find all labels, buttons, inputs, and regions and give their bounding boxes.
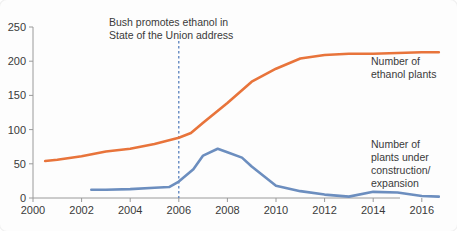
y-tick-label-50: 50	[14, 158, 26, 170]
x-tick-label-2004: 2004	[118, 204, 142, 216]
construction-legend-line-4: expansion	[371, 177, 419, 189]
ethanol-plants-line-chart: 0 50 100 150 200 250 2000 2002 2004 2006…	[0, 0, 457, 231]
construction-legend: Number of plants under construction/ exp…	[371, 138, 431, 189]
y-tick-label-100: 100	[8, 124, 26, 136]
x-tick-label-2000: 2000	[21, 204, 45, 216]
y-tick-label-250: 250	[8, 21, 26, 33]
construction-legend-line-2: plants under	[371, 151, 429, 163]
construction-legend-line-3: construction/	[371, 164, 431, 176]
y-tick-label-150: 150	[8, 89, 26, 101]
ethanol-plants-legend: Number of ethanol plants	[371, 55, 436, 80]
x-tick-label-2002: 2002	[69, 204, 93, 216]
y-axis-ticks: 0 50 100 150 200 250	[8, 21, 33, 204]
annotation-line-1: Bush promotes ethanol in	[109, 16, 228, 28]
x-tick-label-2012: 2012	[312, 204, 336, 216]
y-tick-label-200: 200	[8, 55, 26, 67]
x-tick-label-2006: 2006	[167, 204, 191, 216]
ethanol-plants-legend-line-2: ethanol plants	[371, 68, 436, 80]
x-tick-label-2014: 2014	[361, 204, 385, 216]
x-tick-label-2016: 2016	[410, 204, 434, 216]
x-tick-label-2010: 2010	[264, 204, 288, 216]
x-tick-label-2008: 2008	[215, 204, 239, 216]
bush-ethanol-annotation: Bush promotes ethanol in State of the Un…	[109, 16, 233, 41]
construction-legend-line-1: Number of	[371, 138, 420, 150]
annotation-line-2: State of the Union address	[109, 29, 233, 41]
chart-screenshot: 0 50 100 150 200 250 2000 2002 2004 2006…	[0, 0, 457, 231]
x-axis-ticks: 2000 2002 2004 2006 2008 2010 2012 2014 …	[21, 198, 434, 216]
ethanol-plants-legend-line-1: Number of	[371, 55, 420, 67]
y-tick-label-0: 0	[20, 192, 26, 204]
